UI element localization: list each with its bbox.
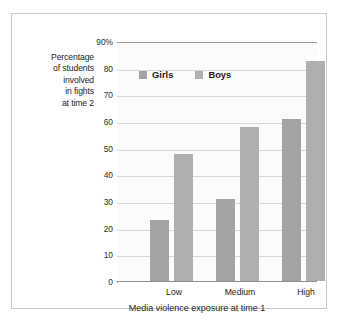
plot-area: Girls Boys [117, 42, 317, 282]
y-tick-label-70: 70 [83, 90, 113, 100]
y-tick-label-20: 20 [83, 224, 113, 234]
x-axis-title: Media violence exposure at time 1 [72, 303, 322, 313]
bar-girls-medium[interactable] [216, 199, 235, 281]
x-axis-line [117, 281, 317, 282]
y-tick-label-50: 50 [83, 144, 113, 154]
chart-frame: Percentage of students involved in fight… [11, 13, 327, 309]
bar-boys-medium[interactable] [240, 127, 259, 281]
y-tick-label-80: 80 [83, 64, 113, 74]
x-tick-label-low: Low [144, 287, 204, 297]
bar-boys-low[interactable] [174, 154, 193, 281]
x-tick-label-high: High [276, 287, 336, 297]
bar-boys-high[interactable] [306, 61, 325, 281]
x-tick-label-medium: Medium [210, 287, 270, 297]
bar-girls-low[interactable] [150, 220, 169, 281]
x-axis-tick-labels: Low Medium High [117, 287, 317, 301]
y-tick-label-30: 30 [83, 197, 113, 207]
y-tick-label-60: 60 [83, 117, 113, 127]
y-tick-label-0: 0 [83, 277, 113, 287]
y-axis-tick-labels: 90% 80 70 60 50 40 30 20 10 0 [80, 42, 113, 282]
bar-group-high [282, 42, 330, 281]
bar-girls-high[interactable] [282, 119, 301, 281]
bar-group-medium [216, 42, 264, 281]
y-tick-label-90: 90% [83, 37, 113, 47]
bar-group-low [150, 42, 198, 281]
legend-swatch-girls-icon [139, 71, 147, 79]
y-tick-label-40: 40 [83, 170, 113, 180]
y-tick-label-10: 10 [83, 250, 113, 260]
